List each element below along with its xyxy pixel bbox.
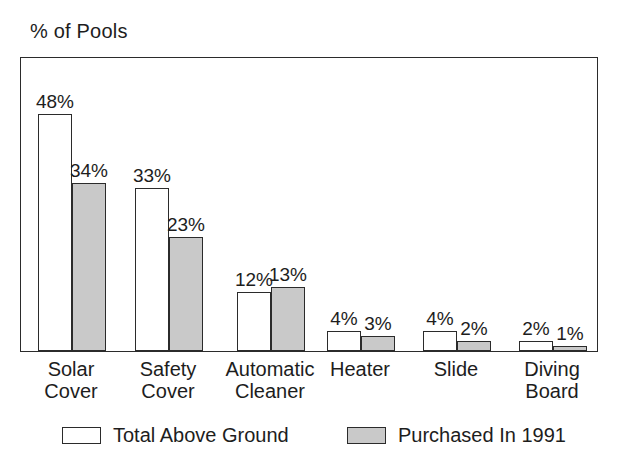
value-label-purchased-3: 3% xyxy=(355,314,401,333)
plot-frame: 48%33%12%4%4%2%34%23%13%3%2%1% xyxy=(20,57,598,352)
value-label-total-1: 33% xyxy=(129,166,175,185)
value-label-purchased-5: 1% xyxy=(547,324,593,343)
category-label-5: Diving Board xyxy=(482,358,621,403)
bar-purchased-0 xyxy=(72,183,106,351)
legend-item-total-above-ground: Total Above Ground xyxy=(62,421,289,449)
bar-total-2 xyxy=(237,292,271,351)
value-label-purchased-2: 13% xyxy=(265,265,311,284)
value-label-total-0: 48% xyxy=(32,92,78,111)
value-label-purchased-0: 34% xyxy=(66,161,112,180)
bar-chart: % of Pools 48%33%12%4%4%2%34%23%13%3%2%1… xyxy=(0,0,621,455)
bar-purchased-2 xyxy=(271,287,305,351)
value-label-purchased-1: 23% xyxy=(163,215,209,234)
plot-area: 48%33%12%4%4%2%34%23%13%3%2%1% xyxy=(21,58,597,351)
legend-swatch-purchased-in-1991-icon xyxy=(347,427,386,444)
bar-total-3 xyxy=(327,331,361,351)
legend-label-purchased-in-1991: Purchased In 1991 xyxy=(398,424,566,447)
legend-label-total-above-ground: Total Above Ground xyxy=(113,424,289,447)
bar-purchased-4 xyxy=(457,341,491,351)
legend-item-purchased-in-1991: Purchased In 1991 xyxy=(347,421,566,449)
chart-legend: Total Above Ground Purchased In 1991 xyxy=(0,421,621,455)
bar-total-0 xyxy=(38,114,72,351)
value-label-purchased-4: 2% xyxy=(451,319,497,338)
bar-purchased-1 xyxy=(169,237,203,351)
legend-swatch-total-above-ground-icon xyxy=(62,427,101,444)
bar-purchased-3 xyxy=(361,336,395,351)
bar-purchased-5 xyxy=(553,346,587,351)
bar-total-1 xyxy=(135,188,169,351)
y-axis-caption: % of Pools xyxy=(30,20,128,43)
